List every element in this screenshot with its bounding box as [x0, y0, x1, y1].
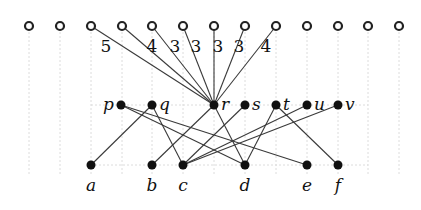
- top-slot-9: [303, 22, 311, 30]
- node-label-s: s: [252, 94, 261, 114]
- node-label-t: t: [283, 94, 290, 114]
- top-slot-0: [25, 22, 33, 30]
- node-label-e: e: [302, 175, 312, 195]
- top-slot-7: [241, 22, 249, 30]
- top-slot-12: [395, 22, 403, 30]
- bipartite-diagram: 5433334pqrstuvabcdef: [0, 0, 421, 210]
- top-slot-1: [56, 22, 64, 30]
- weight-label: 3: [170, 36, 181, 56]
- node-label-p: p: [103, 94, 114, 114]
- top-slot-2: [87, 22, 95, 30]
- node-s: [241, 101, 250, 110]
- node-t: [272, 101, 281, 110]
- weight-label: 5: [101, 36, 112, 56]
- node-e: [303, 161, 312, 170]
- node-d: [241, 161, 250, 170]
- node-label-r: r: [221, 94, 230, 114]
- node-r: [210, 101, 219, 110]
- node-c: [179, 161, 188, 170]
- weight-label: 4: [261, 36, 272, 56]
- node-u: [303, 101, 312, 110]
- top-slot-5: [179, 22, 187, 30]
- node-label-b: b: [147, 175, 158, 195]
- edge-v-c: [183, 105, 338, 165]
- top-slot-10: [334, 22, 342, 30]
- weight-label: 3: [191, 36, 202, 56]
- top-slot-3: [118, 22, 126, 30]
- node-p: [117, 101, 126, 110]
- top-slot-11: [364, 22, 372, 30]
- node-label-q: q: [159, 94, 170, 114]
- node-a: [87, 161, 96, 170]
- node-q: [148, 101, 157, 110]
- weight-label: 3: [213, 36, 224, 56]
- node-label-c: c: [178, 175, 188, 195]
- node-label-f: f: [333, 175, 344, 195]
- top-slot-8: [272, 22, 280, 30]
- top-slot-4: [148, 22, 156, 30]
- node-f: [334, 161, 343, 170]
- node-label-v: v: [345, 94, 355, 114]
- node-label-d: d: [240, 175, 251, 195]
- top-slot-6: [210, 22, 218, 30]
- node-v: [334, 101, 343, 110]
- node-label-a: a: [86, 175, 96, 195]
- edge-r-d: [214, 105, 245, 165]
- edge-q-c: [152, 105, 183, 165]
- node-b: [148, 161, 157, 170]
- weight-label: 4: [147, 36, 158, 56]
- node-label-u: u: [314, 94, 325, 114]
- weight-label: 3: [234, 36, 245, 56]
